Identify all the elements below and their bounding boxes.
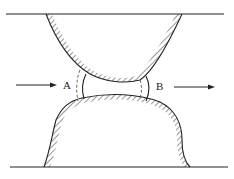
outflow-arrow [174, 85, 215, 90]
upper-grain-hatch [46, 14, 182, 82]
inflow-arrow [16, 83, 57, 88]
label-a: A [63, 79, 71, 91]
label-b: B [156, 80, 163, 92]
interface-a-dashed [77, 70, 80, 101]
lower-grain [44, 95, 190, 167]
interface-a [83, 74, 86, 99]
pore-throat-diagram [0, 0, 234, 179]
interface-b-dashed [140, 80, 142, 98]
